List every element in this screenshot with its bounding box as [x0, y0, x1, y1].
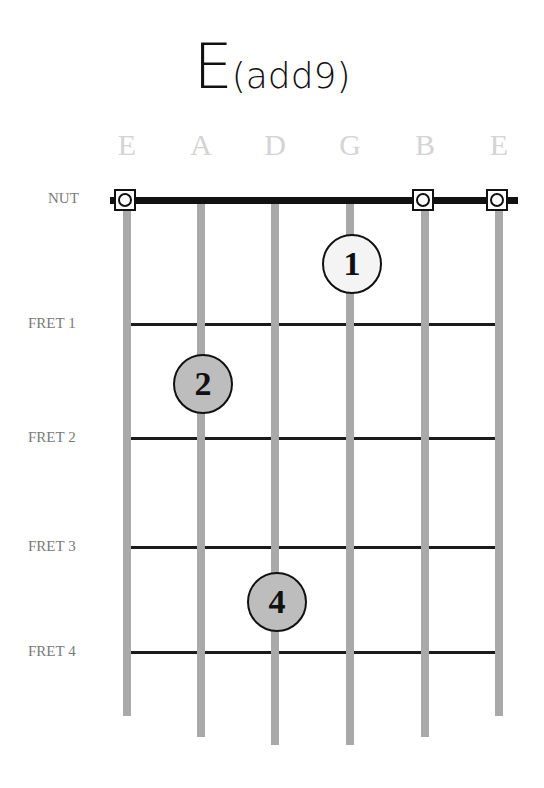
string-high-e	[495, 204, 503, 716]
string-a	[197, 204, 205, 737]
fret-line-2	[131, 437, 497, 440]
fret-line-4	[131, 651, 497, 654]
open-string-marker-low-e	[114, 189, 136, 211]
string-label-d: D	[255, 128, 295, 162]
string-low-e	[123, 204, 131, 716]
string-label-b: B	[405, 128, 445, 162]
open-circle-icon	[416, 193, 430, 207]
open-string-marker-high-e	[486, 189, 508, 211]
open-circle-icon	[118, 193, 132, 207]
nut	[110, 197, 518, 204]
string-label-a: A	[181, 128, 221, 162]
fret-line-1	[131, 323, 497, 326]
string-b	[421, 204, 429, 737]
string-d	[271, 204, 279, 745]
finger-dot-1: 1	[322, 234, 382, 294]
finger-dot-2: 2	[173, 354, 233, 414]
fret-label-1: FRET 1	[28, 315, 76, 332]
chord-title: E(add9)	[0, 30, 544, 103]
string-label-g: G	[330, 128, 370, 162]
fret-line-3	[131, 546, 497, 549]
chord-extension: (add9)	[232, 55, 351, 96]
open-circle-icon	[490, 193, 504, 207]
nut-label: NUT	[48, 190, 79, 207]
finger-dot-4: 4	[247, 572, 307, 632]
chord-root: E	[194, 30, 232, 103]
string-label-low-e: E	[107, 128, 147, 162]
open-string-marker-b	[412, 189, 434, 211]
string-label-high-e: E	[479, 128, 519, 162]
fret-label-2: FRET 2	[28, 429, 76, 446]
fret-label-3: FRET 3	[28, 538, 76, 555]
fret-label-4: FRET 4	[28, 643, 76, 660]
